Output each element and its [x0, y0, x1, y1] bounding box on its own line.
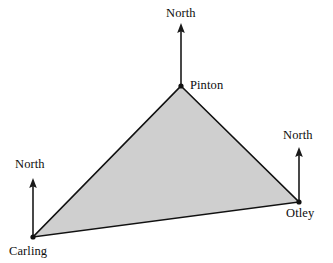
vertex-marker-pinton: [178, 83, 183, 88]
north-arrow-otley: [295, 147, 303, 202]
vertex-marker-carling: [30, 234, 35, 239]
survey-triangle: [33, 86, 299, 237]
north-label-carling: North: [15, 158, 45, 171]
station-label-otley: Otley: [286, 207, 314, 220]
station-label-carling: Carling: [9, 245, 47, 258]
north-arrow-carling: [29, 178, 37, 237]
bearings-diagram-figure: North Pinton North Otley North Carling: [0, 0, 333, 263]
north-arrow-pinton: [177, 23, 185, 86]
north-label-otley: North: [283, 129, 313, 142]
station-label-pinton: Pinton: [190, 79, 223, 92]
vertex-marker-otley: [296, 199, 301, 204]
north-label-pinton: North: [166, 7, 196, 20]
